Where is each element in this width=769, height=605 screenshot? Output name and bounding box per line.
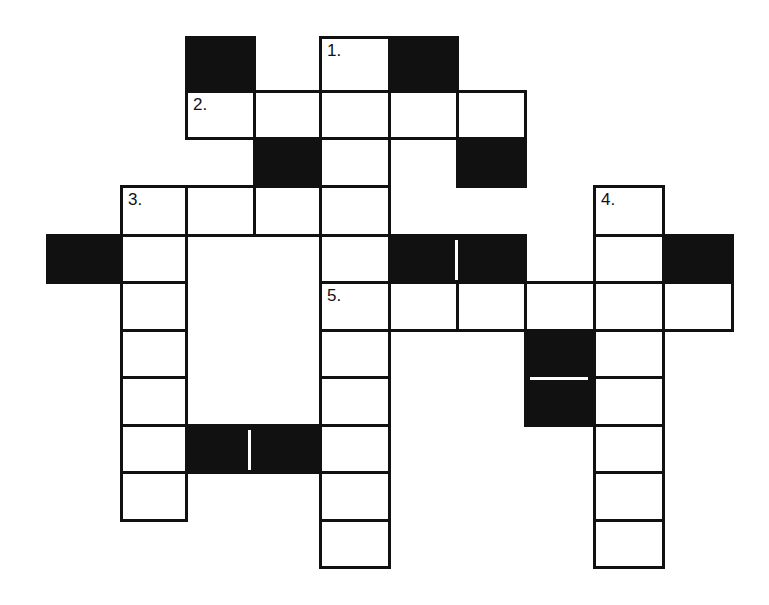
answer-cell[interactable] bbox=[593, 234, 665, 284]
blocked-cell bbox=[524, 376, 596, 427]
answer-cell[interactable] bbox=[319, 90, 391, 140]
blocked-cell bbox=[253, 424, 322, 474]
answer-cell[interactable] bbox=[120, 471, 188, 522]
answer-cell[interactable] bbox=[593, 329, 665, 379]
answer-cell[interactable] bbox=[524, 281, 596, 332]
block-separator-line bbox=[248, 430, 251, 470]
clue-number: 5. bbox=[327, 287, 341, 304]
answer-cell[interactable] bbox=[319, 137, 391, 188]
clue-cell-2[interactable]: 2. bbox=[185, 90, 256, 140]
clue-cell-5[interactable]: 5. bbox=[319, 281, 391, 332]
answer-cell[interactable] bbox=[120, 329, 188, 379]
clue-number: 3. bbox=[128, 191, 142, 208]
answer-cell[interactable] bbox=[319, 185, 391, 237]
clue-cell-4[interactable]: 4. bbox=[593, 185, 665, 237]
crossword-grid: 1.2.3.4.5. bbox=[0, 0, 769, 605]
answer-cell[interactable] bbox=[456, 90, 527, 140]
clue-number: 1. bbox=[327, 42, 341, 59]
clue-number: 4. bbox=[601, 191, 615, 208]
answer-cell[interactable] bbox=[185, 185, 256, 237]
block-separator-line bbox=[455, 240, 458, 280]
answer-cell[interactable] bbox=[319, 471, 391, 522]
clue-cell-1[interactable]: 1. bbox=[319, 36, 391, 93]
blocked-cell bbox=[46, 234, 123, 284]
answer-cell[interactable] bbox=[319, 234, 391, 284]
answer-cell[interactable] bbox=[593, 376, 665, 427]
answer-cell[interactable] bbox=[120, 234, 188, 284]
blocked-cell bbox=[185, 36, 256, 93]
answer-cell[interactable] bbox=[319, 424, 391, 474]
blocked-cell bbox=[456, 234, 527, 284]
blocked-cell bbox=[388, 234, 459, 284]
blocked-cell bbox=[456, 137, 527, 188]
answer-cell[interactable] bbox=[319, 519, 391, 569]
answer-cell[interactable] bbox=[120, 424, 188, 474]
answer-cell[interactable] bbox=[662, 281, 734, 332]
answer-cell[interactable] bbox=[120, 281, 188, 332]
blocked-cell bbox=[185, 424, 256, 474]
block-separator-line bbox=[530, 377, 588, 380]
answer-cell[interactable] bbox=[388, 90, 459, 140]
answer-cell[interactable] bbox=[593, 424, 665, 474]
blocked-cell bbox=[524, 329, 596, 379]
answer-cell[interactable] bbox=[593, 519, 665, 569]
clue-number: 2. bbox=[193, 96, 207, 113]
answer-cell[interactable] bbox=[593, 281, 665, 332]
clue-cell-3[interactable]: 3. bbox=[120, 185, 188, 237]
blocked-cell bbox=[253, 137, 322, 188]
answer-cell[interactable] bbox=[593, 471, 665, 522]
answer-cell[interactable] bbox=[319, 329, 391, 379]
answer-cell[interactable] bbox=[253, 90, 322, 140]
blocked-cell bbox=[662, 234, 734, 284]
blocked-cell bbox=[388, 36, 459, 93]
answer-cell[interactable] bbox=[388, 281, 459, 332]
answer-cell[interactable] bbox=[120, 376, 188, 427]
answer-cell[interactable] bbox=[456, 281, 527, 332]
answer-cell[interactable] bbox=[319, 376, 391, 427]
answer-cell[interactable] bbox=[253, 185, 322, 237]
